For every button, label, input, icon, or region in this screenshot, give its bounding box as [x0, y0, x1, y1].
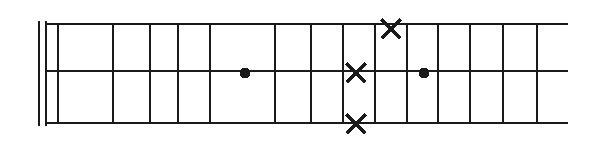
finger-dot-marker-1[interactable]: [240, 68, 251, 79]
mute-cross-marker-3[interactable]: [382, 20, 401, 39]
fretboard-diagram: [0, 0, 603, 141]
markers-group: [240, 20, 430, 134]
strings-group: [46, 24, 568, 123]
nut-icon: [39, 21, 46, 126]
diagram-canvas: [0, 0, 603, 141]
frets-group: [58, 24, 537, 123]
mute-cross-marker-2[interactable]: [347, 64, 366, 83]
finger-dot-marker-5[interactable]: [419, 68, 430, 79]
